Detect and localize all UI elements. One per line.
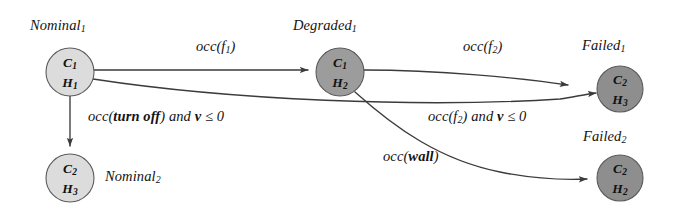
state-diagram: C1 H1 C1 H2 C2 H3 C2 H3 C2 H2	[0, 0, 681, 212]
node-failed2[interactable]: C2 H2	[597, 155, 643, 201]
edge-label-nominal1-nominal2: occ(turn off) and v ≤ 0	[88, 108, 224, 125]
edge-degraded1-failed2-path	[355, 92, 587, 179]
node-degraded1[interactable]: C1 H2	[316, 48, 364, 96]
edge-label-degraded1-failed1: occ(f2)	[463, 38, 503, 55]
edge-label-nominal1-failed1: occ(f2) and v ≤ 0	[428, 108, 526, 125]
state-label-nominal1: Nominal1	[30, 17, 86, 34]
node-failed1[interactable]: C2 H3	[597, 66, 643, 112]
state-label-degraded1: Degraded1	[293, 17, 357, 34]
node-nominal2[interactable]: C2 H3	[46, 154, 94, 202]
state-label-failed2: Failed2	[583, 128, 627, 145]
state-label-failed1: Failed1	[582, 37, 626, 54]
edge-label-nominal1-degraded1: occ(f1)	[196, 38, 236, 55]
node-nominal1[interactable]: C1 H1	[46, 48, 94, 96]
edge-label-degraded1-failed2: occ(wall)	[383, 148, 439, 165]
edge-degraded1-failed1-path	[364, 70, 568, 85]
state-label-nominal2: Nominal2	[105, 168, 161, 185]
